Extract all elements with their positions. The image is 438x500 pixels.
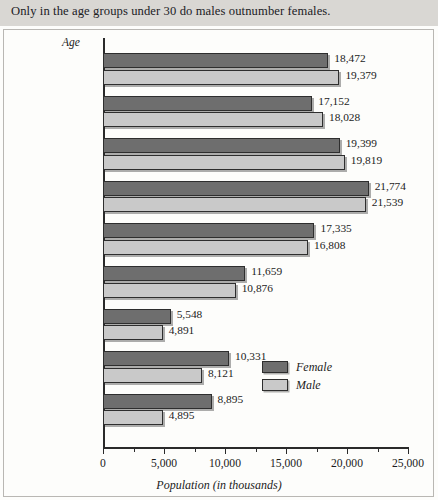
x-tick-label: 10,000	[209, 457, 241, 470]
bar-female[interactable]	[103, 394, 212, 409]
x-tick-minor	[317, 447, 318, 452]
bar-value-label: 8,895	[218, 393, 244, 405]
x-tick-major	[225, 447, 226, 454]
bar-female[interactable]	[103, 96, 312, 111]
plot-area: Age Under 1018,47219,37910–1917,15218,02…	[0, 0, 438, 500]
bar-value-label: 18,472	[334, 52, 365, 64]
legend-label: Male	[296, 378, 321, 393]
x-tick-major	[347, 447, 348, 454]
x-tick-minor	[134, 447, 135, 452]
bar-value-label: 4,895	[169, 409, 195, 421]
bar-value-label: 8,121	[208, 367, 234, 379]
bar-value-label: 19,399	[346, 137, 377, 149]
bar-female[interactable]	[103, 181, 369, 196]
x-tick-minor	[256, 447, 257, 452]
x-tick-label: 25,000	[392, 457, 424, 470]
bar-male[interactable]	[103, 155, 345, 170]
bar-male[interactable]	[103, 325, 163, 340]
bar-female[interactable]	[103, 223, 314, 238]
bar-value-label: 4,891	[169, 324, 195, 336]
bar-value-label: 18,028	[329, 111, 360, 123]
bar-male[interactable]	[103, 197, 366, 212]
x-tick-label: 0	[100, 457, 106, 470]
bar-value-label: 17,152	[318, 95, 349, 107]
bar-female[interactable]	[103, 351, 229, 366]
bar-value-label: 11,659	[251, 265, 282, 277]
bar-female[interactable]	[103, 138, 340, 153]
x-tick-major	[164, 447, 165, 454]
bar-value-label: 17,335	[320, 222, 351, 234]
bar-value-label: 19,819	[351, 154, 382, 166]
chart-page: Only in the age groups under 30 do males…	[0, 0, 438, 500]
bar-male[interactable]	[103, 70, 339, 85]
female-swatch	[262, 361, 288, 373]
x-tick-minor	[195, 447, 196, 452]
bar-value-label: 10,876	[242, 282, 273, 294]
bar-value-label: 5,548	[177, 308, 203, 320]
bar-female[interactable]	[103, 309, 171, 324]
x-axis-title: Population (in thousands)	[0, 478, 438, 493]
x-tick-label: 20,000	[331, 457, 363, 470]
bar-male[interactable]	[103, 410, 163, 425]
x-tick-label: 15,000	[270, 457, 302, 470]
bar-value-label: 21,774	[375, 180, 406, 192]
x-tick-minor	[378, 447, 379, 452]
bar-female[interactable]	[103, 53, 328, 68]
bar-male[interactable]	[103, 283, 236, 298]
x-tick-major	[408, 447, 409, 454]
bar-value-label: 19,379	[345, 69, 376, 81]
x-tick-major	[103, 447, 104, 454]
x-tick-major	[286, 447, 287, 454]
bar-male[interactable]	[103, 240, 308, 255]
bar-female[interactable]	[103, 266, 245, 281]
bar-male[interactable]	[103, 368, 202, 383]
bar-value-label: 16,808	[314, 239, 345, 251]
male-swatch	[262, 379, 288, 391]
x-tick-label: 5,000	[151, 457, 177, 470]
bar-male[interactable]	[103, 112, 323, 127]
bar-value-label: 21,539	[372, 196, 403, 208]
y-axis-title: Age	[62, 36, 80, 48]
legend-label: Female	[296, 360, 332, 375]
